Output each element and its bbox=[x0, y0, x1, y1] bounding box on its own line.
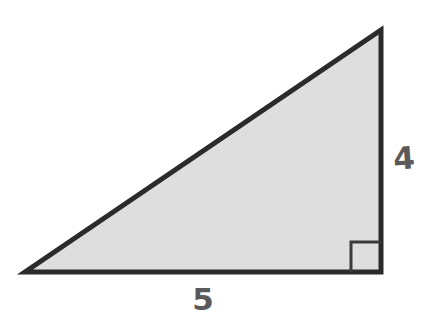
base-length-label: 5 bbox=[186, 284, 220, 315]
figure-canvas: 5 4 bbox=[0, 0, 424, 330]
height-length-label: 4 bbox=[387, 142, 421, 175]
triangle-shape bbox=[25, 30, 381, 272]
